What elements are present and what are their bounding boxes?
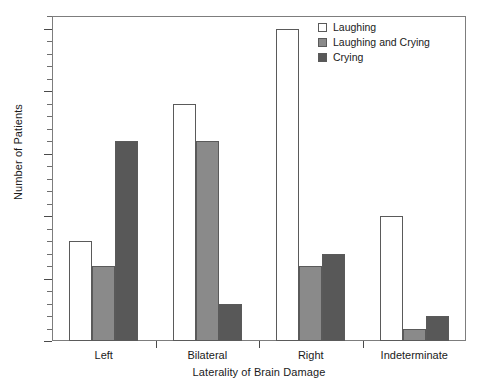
- y-tick-minor: [47, 241, 52, 242]
- legend-label: Laughing and Crying: [333, 36, 430, 48]
- y-tick-minor: [47, 166, 52, 167]
- y-tick-major: [44, 154, 52, 155]
- bar: [173, 104, 196, 342]
- legend: LaughingLaughing and CryingCrying: [318, 20, 430, 65]
- y-tick-minor: [47, 304, 52, 305]
- legend-item: Laughing and Crying: [318, 35, 430, 49]
- bar: [380, 216, 403, 341]
- bar: [426, 316, 449, 341]
- legend-item: Crying: [318, 50, 430, 64]
- bar: [196, 141, 219, 341]
- legend-item: Laughing: [318, 20, 430, 34]
- x-tick: [259, 341, 260, 348]
- y-tick-minor: [47, 204, 52, 205]
- legend-swatch-icon: [318, 53, 327, 62]
- legend-label: Crying: [333, 51, 363, 63]
- y-axis-title: Number of Patients: [12, 32, 24, 272]
- y-tick-minor: [47, 79, 52, 80]
- bar: [322, 254, 345, 342]
- y-tick-minor: [47, 179, 52, 180]
- bar: [299, 266, 322, 341]
- y-tick-minor: [47, 329, 52, 330]
- bar-chart-figure: Number of Patients 0510152025 LeftBilate…: [0, 0, 480, 384]
- x-tick: [363, 341, 364, 348]
- y-tick-minor: [47, 41, 52, 42]
- bar: [219, 304, 242, 342]
- y-tick-major: [44, 91, 52, 92]
- y-tick-minor: [47, 66, 52, 67]
- y-tick-minor: [47, 254, 52, 255]
- y-tick-minor: [47, 141, 52, 142]
- y-tick-minor: [47, 229, 52, 230]
- bar: [69, 241, 92, 341]
- x-category-label: Indeterminate: [381, 349, 448, 361]
- y-tick-minor: [47, 129, 52, 130]
- y-tick-major: [44, 279, 52, 280]
- y-tick-major: [44, 341, 52, 342]
- x-category-label: Bilateral: [187, 349, 227, 361]
- y-tick-minor: [47, 191, 52, 192]
- y-tick-minor: [47, 266, 52, 267]
- y-tick-minor: [47, 104, 52, 105]
- legend-swatch-icon: [318, 23, 327, 32]
- bar: [92, 266, 115, 341]
- bar: [276, 29, 299, 342]
- y-tick-minor: [47, 54, 52, 55]
- legend-label: Laughing: [333, 21, 376, 33]
- legend-swatch-icon: [318, 38, 327, 47]
- x-category-label: Left: [95, 349, 113, 361]
- y-tick-minor: [47, 316, 52, 317]
- y-tick-major: [44, 29, 52, 30]
- y-tick-major: [44, 216, 52, 217]
- y-tick-minor: [47, 116, 52, 117]
- y-tick-minor: [47, 291, 52, 292]
- x-axis-title: Laterality of Brain Damage: [52, 366, 466, 378]
- bar: [115, 141, 138, 341]
- bar: [403, 329, 426, 342]
- x-tick: [156, 341, 157, 348]
- x-category-label: Right: [298, 349, 324, 361]
- y-tick-minor: [47, 16, 52, 17]
